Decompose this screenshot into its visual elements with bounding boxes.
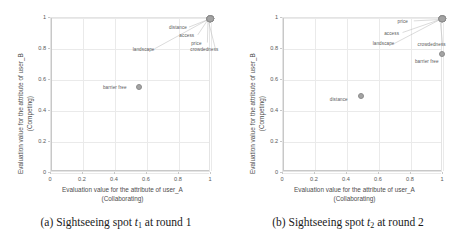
y-tickmark	[280, 172, 282, 173]
gridline-vertical	[411, 18, 412, 171]
scatter-chart-b: 00.20.40.60.8100.20.40.60.81priceaccessl…	[232, 0, 464, 200]
gridline-vertical	[83, 18, 84, 171]
gridline-vertical	[315, 18, 316, 171]
gridline-vertical	[347, 18, 348, 171]
x-tick-label: 0.4	[342, 176, 350, 182]
y-tickmark	[280, 17, 282, 18]
gridline-horizontal	[283, 18, 441, 19]
y-axis-title: Evaluation value for the attribute of us…	[248, 53, 267, 174]
gridline-vertical	[211, 18, 212, 171]
x-axis-title: Evaluation value for the attribute of us…	[30, 185, 215, 204]
y-tickmark	[280, 141, 282, 142]
data-point[interactable]	[438, 15, 446, 23]
x-tickmark	[378, 172, 379, 174]
x-tickmark	[314, 172, 315, 174]
figure-caption-a: (a) Sightseeing spot t1 at round 1	[0, 216, 232, 230]
x-tickmark	[410, 172, 411, 174]
figure-caption-b: (b) Sightseeing spot t2 at round 2	[232, 216, 464, 230]
data-point-label: price	[398, 18, 408, 23]
data-point-label: crowdedness	[190, 46, 218, 51]
gridline-vertical	[179, 18, 180, 171]
y-tickmark	[48, 172, 50, 173]
data-point[interactable]	[439, 51, 445, 57]
gridline-horizontal	[51, 142, 209, 143]
gridline-horizontal	[283, 49, 441, 50]
caption-prefix: (b)	[272, 216, 285, 228]
y-tickmark	[48, 48, 50, 49]
y-tick-label: 1	[260, 14, 278, 20]
x-tickmark	[50, 172, 51, 174]
data-point[interactable]	[136, 84, 142, 90]
y-axis-line	[283, 18, 284, 171]
x-tick-label: 1	[208, 176, 211, 182]
x-tickmark	[82, 172, 83, 174]
gridline-horizontal	[51, 49, 209, 50]
y-tickmark	[48, 141, 50, 142]
x-tick-label: 0	[280, 176, 283, 182]
gridline-horizontal	[51, 111, 209, 112]
y-axis-title-line2: (Competing)	[257, 53, 266, 174]
y-tickmark	[280, 110, 282, 111]
y-tick-label: 0.8	[28, 45, 46, 51]
x-tickmark	[442, 172, 443, 174]
x-tick-label: 0	[48, 176, 51, 182]
gridline-horizontal	[283, 173, 441, 174]
x-tick-label: 0.6	[142, 176, 150, 182]
y-tickmark	[48, 79, 50, 80]
data-point-label: landscape	[133, 46, 155, 51]
x-tick-label: 1	[440, 176, 443, 182]
y-axis-title: Evaluation value for the attribute of us…	[16, 53, 35, 174]
figure-panel-b: 00.20.40.60.8100.20.40.60.81priceaccessl…	[232, 0, 464, 245]
x-tick-label: 0.8	[406, 176, 414, 182]
y-tickmark	[280, 79, 282, 80]
y-tickmark	[48, 17, 50, 18]
gridline-horizontal	[283, 80, 441, 81]
x-tickmark	[210, 172, 211, 174]
x-tick-label: 0.4	[110, 176, 118, 182]
gridline-vertical	[115, 18, 116, 171]
data-point[interactable]	[206, 15, 214, 23]
x-axis-title-line1: Evaluation value for the attribute of us…	[30, 185, 215, 194]
data-point-label: access	[384, 30, 399, 35]
plot-area	[50, 17, 210, 172]
x-axis-title-line2: (Collaborating)	[262, 194, 447, 203]
gridline-horizontal	[51, 18, 209, 19]
figure-panel-a: 00.20.40.60.8100.20.40.60.81distanceacce…	[0, 0, 232, 245]
caption-subscript: 2	[370, 221, 374, 230]
x-tickmark	[346, 172, 347, 174]
caption-tail: at round 1	[145, 216, 192, 228]
data-point-label: barrier free	[103, 85, 127, 90]
x-axis-line	[283, 170, 441, 171]
x-tickmark	[178, 172, 179, 174]
data-point-label: price	[191, 40, 201, 45]
x-axis-title-line2: (Collaborating)	[30, 194, 215, 203]
x-tick-label: 0.8	[174, 176, 182, 182]
y-tick-label: 0.8	[260, 45, 278, 51]
x-tick-label: 0.2	[310, 176, 318, 182]
data-point-label: access	[179, 32, 194, 37]
data-point-label: distance	[169, 25, 187, 30]
x-tick-label: 0.2	[78, 176, 86, 182]
gridline-horizontal	[51, 173, 209, 174]
x-tickmark	[146, 172, 147, 174]
figure-row: 00.20.40.60.8100.20.40.60.81distanceacce…	[0, 0, 464, 245]
y-axis-title-line1: Evaluation value for the attribute of us…	[248, 53, 257, 174]
scatter-chart-a: 00.20.40.60.8100.20.40.60.81distanceacce…	[0, 0, 232, 200]
data-point-label: distance	[330, 97, 348, 102]
x-tickmark	[114, 172, 115, 174]
x-tick-label: 0.6	[374, 176, 382, 182]
caption-word: Sightseeing spot	[288, 216, 364, 228]
x-axis-title-line1: Evaluation value for the attribute of us…	[262, 185, 447, 194]
data-point[interactable]	[358, 93, 364, 99]
caption-prefix: (a)	[41, 216, 54, 228]
x-axis-title: Evaluation value for the attribute of us…	[262, 185, 447, 204]
x-axis-line	[51, 170, 209, 171]
y-axis-title-line1: Evaluation value for the attribute of us…	[16, 53, 25, 174]
gridline-horizontal	[283, 142, 441, 143]
y-axis-title-line2: (Competing)	[25, 53, 34, 174]
y-axis-line	[51, 18, 52, 171]
gridline-vertical	[147, 18, 148, 171]
y-tickmark	[280, 48, 282, 49]
gridline-horizontal	[51, 80, 209, 81]
x-tickmark	[282, 172, 283, 174]
